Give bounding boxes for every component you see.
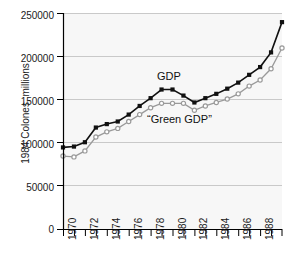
x-tick-label-1974: 1974 <box>111 218 122 240</box>
x-tick-label-1984: 1984 <box>220 218 231 240</box>
gdp-series-label: GDP <box>157 70 181 82</box>
x-tick-label-1976: 1976 <box>133 218 144 240</box>
x-tick-label-1978: 1978 <box>155 218 166 240</box>
x-tick-label-1982: 1982 <box>198 218 209 240</box>
x-tick-label-1988: 1988 <box>264 218 275 240</box>
chart-figure: 1984 Colones, millions 0 50000 100000 15… <box>0 0 293 277</box>
x-tick-label-1970: 1970 <box>67 218 78 240</box>
green-gdp-series-label: “Green GDP” <box>147 113 212 125</box>
x-tick-label-1986: 1986 <box>242 218 253 240</box>
x-tick-label-1972: 1972 <box>89 218 100 240</box>
x-tick-label-1980: 1980 <box>177 218 188 240</box>
x-axis-tick-labels: 1970 1972 1974 1976 1978 1980 1982 1984 … <box>0 0 293 277</box>
